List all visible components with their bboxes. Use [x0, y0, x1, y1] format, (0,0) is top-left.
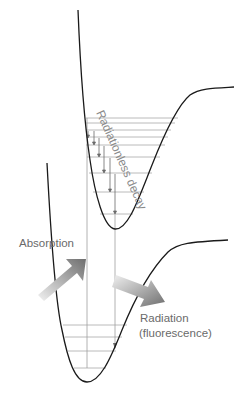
ground-state-levels [63, 325, 127, 368]
absorption-label: Absorption [19, 237, 74, 250]
radiation-label: Radiation [140, 312, 189, 325]
absorption-arrow [38, 259, 86, 301]
fluorescence-label: (fluorescence) [139, 327, 212, 340]
energy-diagram [0, 0, 246, 407]
radiation-arrow [112, 275, 165, 307]
